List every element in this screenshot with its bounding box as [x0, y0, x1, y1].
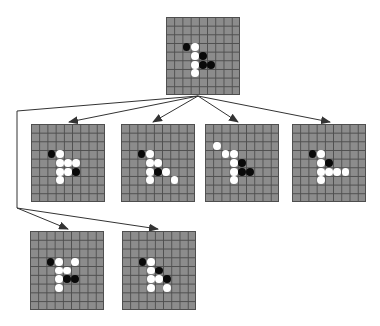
edge-root-to-child-1 — [69, 96, 198, 122]
black-stone — [309, 150, 317, 158]
black-stone — [154, 168, 162, 176]
white-stone — [154, 159, 162, 167]
board-child-3 — [205, 124, 279, 202]
white-stone — [146, 168, 154, 176]
board-child-1 — [31, 124, 105, 202]
white-stone — [162, 168, 170, 176]
white-stone — [64, 168, 72, 176]
white-stone — [317, 176, 325, 184]
white-stone — [191, 69, 199, 77]
white-stone — [63, 267, 71, 275]
white-stone — [56, 150, 64, 158]
white-stone — [325, 168, 333, 176]
board-child-4 — [292, 124, 366, 202]
black-stone — [238, 159, 246, 167]
black-stone — [47, 258, 55, 266]
white-stone — [146, 150, 154, 158]
black-stone — [183, 43, 191, 51]
white-stone — [147, 284, 155, 292]
white-stone — [56, 159, 64, 167]
black-stone — [199, 61, 207, 69]
white-stone — [230, 150, 238, 158]
white-stone — [230, 159, 238, 167]
white-stone — [171, 176, 179, 184]
black-stone — [72, 168, 80, 176]
white-stone — [147, 258, 155, 266]
white-stone — [56, 168, 64, 176]
black-stone — [139, 258, 147, 266]
board-child-2 — [121, 124, 195, 202]
white-stone — [55, 258, 63, 266]
white-stone — [146, 176, 154, 184]
black-stone — [199, 52, 207, 60]
edge-root-to-child-4 — [198, 96, 330, 122]
white-stone — [317, 168, 325, 176]
black-stone — [48, 150, 56, 158]
white-stone — [64, 159, 72, 167]
white-stone — [55, 284, 63, 292]
white-stone — [191, 43, 199, 51]
edge-junction-to-child-6 — [17, 208, 158, 229]
edge-root-to-child-2 — [153, 96, 198, 122]
white-stone — [71, 258, 79, 266]
white-stone — [230, 168, 238, 176]
white-stone — [163, 284, 171, 292]
board-child-5 — [30, 231, 104, 310]
white-stone — [55, 267, 63, 275]
board-root — [166, 17, 240, 95]
black-stone — [207, 61, 215, 69]
white-stone — [342, 168, 350, 176]
white-stone — [191, 61, 199, 69]
black-stone — [155, 267, 163, 275]
white-stone — [222, 150, 230, 158]
white-stone — [191, 52, 199, 60]
black-stone — [63, 275, 71, 283]
white-stone — [317, 159, 325, 167]
white-stone — [230, 176, 238, 184]
black-stone — [138, 150, 146, 158]
white-stone — [56, 176, 64, 184]
white-stone — [155, 275, 163, 283]
white-stone — [146, 159, 154, 167]
white-stone — [72, 159, 80, 167]
edge-junction-to-child-5 — [17, 208, 68, 229]
edge-root-to-child-3 — [198, 96, 238, 122]
white-stone — [213, 142, 221, 150]
white-stone — [147, 275, 155, 283]
black-stone — [71, 275, 79, 283]
white-stone — [317, 150, 325, 158]
black-stone — [325, 159, 333, 167]
white-stone — [55, 275, 63, 283]
board-child-6 — [122, 231, 196, 310]
black-stone — [238, 168, 246, 176]
black-stone — [246, 168, 254, 176]
white-stone — [333, 168, 341, 176]
black-stone — [163, 275, 171, 283]
white-stone — [147, 267, 155, 275]
